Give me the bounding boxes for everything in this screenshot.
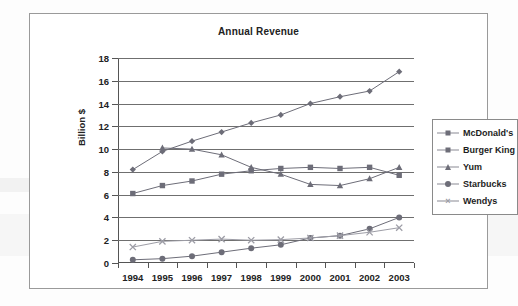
data-point-marker — [189, 178, 194, 183]
data-point-marker — [189, 253, 195, 259]
y-axis-tick-label: 0 — [104, 258, 109, 269]
data-point-marker — [337, 166, 342, 171]
data-point-marker — [248, 164, 254, 170]
x-axis-tick — [118, 263, 119, 268]
chart-frame: Annual Revenue Billion $ 024681012141618… — [29, 13, 488, 289]
chart-legend: McDonald'sBurger KingYumStarbucks×Wendys — [432, 119, 518, 215]
data-point-marker — [278, 242, 284, 248]
data-point-marker — [219, 129, 225, 135]
legend-item-starbucks[interactable]: Starbucks — [437, 175, 513, 192]
triangle-marker-icon — [437, 161, 459, 173]
x-axis-tick-label: 2000 — [300, 272, 321, 283]
legend-item-wendys[interactable]: ×Wendys — [437, 192, 513, 209]
data-point-marker — [189, 138, 195, 144]
series-layer — [118, 58, 414, 263]
x-axis-tick — [266, 263, 267, 268]
x-axis-tick-label: 1995 — [152, 272, 173, 283]
x-axis-tick — [414, 263, 415, 268]
data-point-marker — [219, 249, 225, 255]
legend-item-label: Yum — [463, 162, 482, 172]
series-line — [133, 217, 399, 259]
data-point-marker — [219, 171, 224, 176]
x-axis-tick — [207, 263, 208, 268]
data-point-marker — [308, 165, 313, 170]
data-point-marker — [337, 94, 343, 100]
x-axis-tick-label: 2002 — [359, 272, 380, 283]
data-point-marker — [396, 214, 402, 220]
legend-marker — [446, 147, 451, 152]
data-point-marker — [278, 166, 283, 171]
legend-item-label: Wendys — [463, 196, 497, 206]
x-axis-tick-label: 2001 — [329, 272, 350, 283]
data-point-marker — [248, 120, 254, 126]
y-axis-tick-label: 10 — [98, 144, 109, 155]
data-point-marker — [397, 173, 402, 178]
chart-page: Annual Revenue Billion $ 024681012141618… — [0, 0, 518, 306]
x-axis-tick — [355, 263, 356, 268]
x-axis-tick-label: 1999 — [270, 272, 291, 283]
x-axis-tick-label: 1996 — [181, 272, 202, 283]
legend-marker — [446, 130, 451, 135]
data-point-marker — [130, 257, 136, 263]
data-point-marker — [367, 88, 373, 94]
x-axis-tick — [177, 263, 178, 268]
legend-item-label: Burger King — [463, 145, 515, 155]
x-axis-tick — [236, 263, 237, 268]
legend-item-yum[interactable]: Yum — [437, 158, 513, 175]
data-point-marker — [159, 256, 165, 262]
x-axis-tick — [148, 263, 149, 268]
series-line — [133, 228, 399, 247]
y-axis-tick-label: 14 — [98, 98, 109, 109]
legend-marker: × — [445, 196, 450, 205]
legend-marker — [445, 181, 451, 187]
y-axis-tick-label: 4 — [104, 212, 109, 223]
data-point-marker — [248, 245, 254, 251]
y-axis-tick-label: 6 — [104, 189, 109, 200]
cross-marker-icon: × — [437, 195, 459, 207]
y-axis-tick-label: 2 — [104, 235, 109, 246]
data-point-marker — [396, 69, 402, 75]
y-axis-tick-label: 8 — [104, 166, 109, 177]
legend-item-burger-king[interactable]: Burger King — [437, 141, 513, 158]
y-axis-tick-label: 16 — [98, 75, 109, 86]
legend-item-label: McDonald's — [463, 128, 513, 138]
data-point-marker — [307, 100, 313, 106]
y-axis-tick-label: 18 — [98, 53, 109, 64]
data-point-marker — [160, 183, 165, 188]
x-axis-tick — [384, 263, 385, 268]
legend-marker — [445, 164, 451, 170]
y-axis-tick-label: 12 — [98, 121, 109, 132]
x-axis-tick-label: 1998 — [241, 272, 262, 283]
data-point-marker — [278, 112, 284, 118]
x-axis-tick-label: 1997 — [211, 272, 232, 283]
x-axis-tick-label: 1994 — [122, 272, 143, 283]
diamond-marker-icon — [437, 127, 459, 139]
x-axis-tick-label: 2003 — [389, 272, 410, 283]
x-axis-tick — [325, 263, 326, 268]
legend-item-label: Starbucks — [463, 179, 507, 189]
legend-item-mcdonald-s[interactable]: McDonald's — [437, 124, 513, 141]
y-axis-title: Billion $ — [76, 109, 87, 146]
series-mcdonald-s — [130, 69, 403, 173]
data-point-marker — [130, 191, 135, 196]
data-point-marker — [396, 164, 402, 170]
data-point-marker — [367, 165, 372, 170]
series-starbucks — [130, 214, 402, 262]
series-line — [133, 72, 399, 170]
x-axis-tick — [296, 263, 297, 268]
plot-area: 024681012141618 199419951996199719981999… — [118, 58, 414, 263]
square-marker-icon — [437, 144, 459, 156]
chart-title: Annual Revenue — [30, 26, 487, 37]
circle-marker-icon — [437, 178, 459, 190]
data-point-marker — [130, 167, 136, 173]
